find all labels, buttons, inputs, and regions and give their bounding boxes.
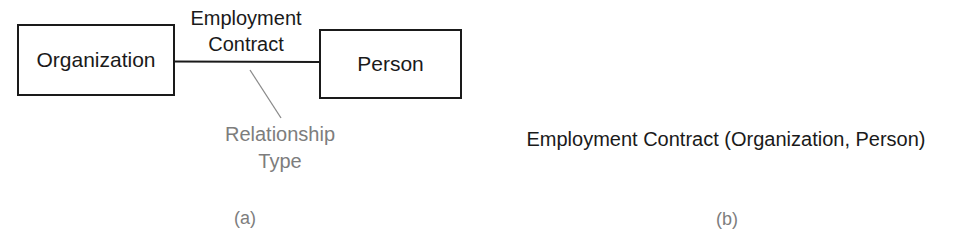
relationship-line bbox=[174, 62, 320, 63]
entity-person: Person bbox=[319, 29, 462, 99]
relationship-notation: Employment Contract (Organization, Perso… bbox=[505, 128, 947, 151]
relationship-label-line1: Employment bbox=[175, 7, 317, 30]
caption-b: (b) bbox=[697, 209, 757, 230]
annotation-pointer bbox=[250, 70, 281, 118]
relationship-label-line2: Contract bbox=[175, 33, 317, 56]
caption-a: (a) bbox=[215, 208, 275, 229]
annotation-line1: Relationship bbox=[215, 123, 345, 146]
entity-person-label: Person bbox=[357, 52, 424, 76]
entity-organization: Organization bbox=[17, 24, 175, 96]
annotation-line2: Type bbox=[215, 150, 345, 173]
entity-organization-label: Organization bbox=[36, 48, 155, 72]
